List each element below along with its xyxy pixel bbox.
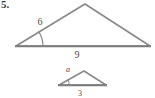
small-triangle-base-label: 3 [78, 89, 82, 98]
large-triangle-shape [16, 4, 150, 46]
problem-number: 5. [1, 0, 10, 10]
large-triangle-group [15, 4, 151, 46]
figure-page: 6 9 a 3 5. [0, 0, 155, 98]
large-triangle-angle-arc [39, 31, 43, 46]
geometry-figure: 6 9 a 3 5. [0, 0, 155, 98]
large-triangle-base-label: 9 [75, 49, 80, 60]
small-triangle-side-label: a [66, 65, 70, 74]
large-triangle-side-label: 6 [38, 16, 43, 27]
